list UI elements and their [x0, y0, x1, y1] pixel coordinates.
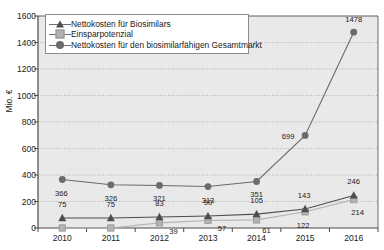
x-tick-label: 2012 [150, 233, 169, 243]
x-tick-label: 2016 [344, 233, 363, 243]
legend-item-biosimilars: Nettokosten für Biosimilars [49, 19, 244, 29]
legend-label: Nettokosten für den biosimilarfähigen Ge… [71, 40, 262, 50]
data-point-label: 326 [105, 193, 118, 202]
x-tick-label: 2014 [247, 233, 266, 243]
square-marker-icon [49, 29, 71, 39]
data-point-label: 61 [262, 225, 270, 234]
x-tick-label: 2011 [102, 233, 120, 243]
x-tick-label: 2013 [199, 233, 218, 243]
data-point-label: 699 [282, 132, 295, 141]
data-point-label: 57 [218, 224, 226, 233]
data-point-label: 321 [153, 194, 166, 203]
x-tick-label: 2010 [53, 233, 72, 243]
x-tick-label: 2015 [296, 233, 315, 243]
data-point-label: 143 [298, 191, 311, 200]
legend-item-einsparpotenzial: Einsparpotenzial [49, 29, 244, 39]
data-point-label: 366 [55, 188, 68, 197]
data-point-label: 351 [250, 190, 263, 199]
data-point-label: 1478 [345, 15, 362, 24]
legend-label: Einsparpotenzial [71, 29, 133, 39]
legend-label: Nettokosten für Biosimilars [71, 19, 171, 29]
data-point-label: 313 [202, 195, 215, 204]
data-point-label: 122 [297, 220, 310, 229]
chart-legend: Nettokosten für Biosimilars Einsparpoten… [45, 14, 249, 54]
chart-container: Mio. € 02004006008001000120014001600 201… [0, 0, 384, 250]
data-point-label: 246 [347, 177, 360, 186]
triangle-marker-icon [49, 19, 71, 29]
circle-marker-icon [49, 40, 71, 50]
data-point-label: 39 [169, 226, 177, 235]
legend-item-gesamtmarkt: Nettokosten für den biosimilarfähigen Ge… [49, 40, 244, 50]
data-point-label: 214 [351, 207, 364, 216]
data-point-label: 75 [58, 200, 66, 209]
